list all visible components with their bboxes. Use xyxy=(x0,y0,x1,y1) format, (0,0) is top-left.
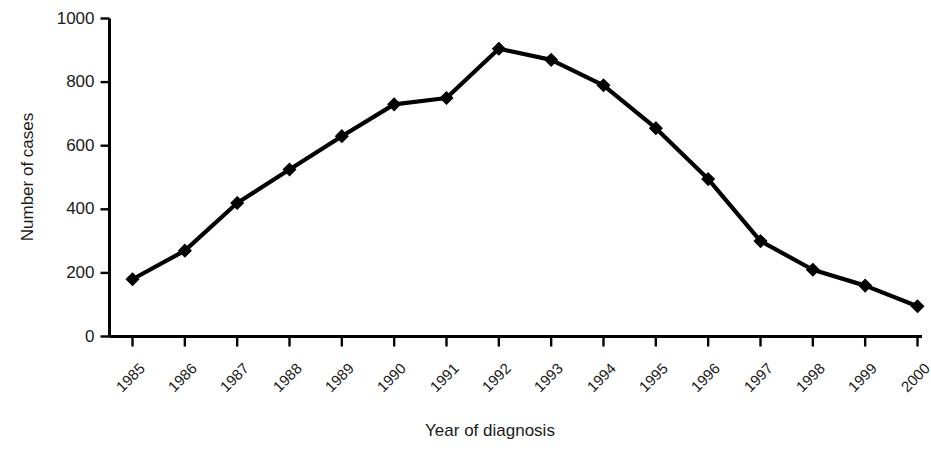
x-axis-title: Year of diagnosis xyxy=(0,421,931,441)
y-axis-tick-label: 1000 xyxy=(25,9,95,29)
data-series-line xyxy=(133,49,918,307)
axis-lines xyxy=(110,19,923,337)
data-point-markers xyxy=(126,43,923,313)
line-chart: 02004006008001000 1985198619871988198919… xyxy=(0,0,931,452)
y-axis-title: Number of cases xyxy=(18,87,38,267)
tick-marks xyxy=(101,19,918,347)
plot-area: 02004006008001000 1985198619871988198919… xyxy=(0,0,931,452)
y-axis-tick-label: 0 xyxy=(25,327,95,347)
